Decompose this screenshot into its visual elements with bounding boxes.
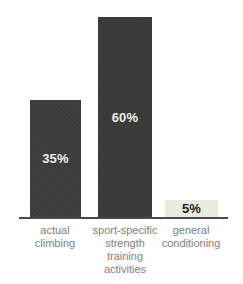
plot-area: 35% 60% 5% — [0, 0, 243, 217]
bar-chart: 35% 60% 5% actual climbing sport-specifi… — [0, 0, 243, 284]
bar-general-conditioning: 5% — [165, 200, 218, 217]
bar-value-label: 5% — [182, 201, 201, 216]
bar-value-label: 60% — [112, 110, 139, 125]
bar-sport-specific-strength-training: 60% — [98, 17, 152, 217]
bar-value-label: 35% — [42, 151, 69, 166]
x-axis-line — [19, 217, 228, 219]
category-label-general-conditioning: general conditioning — [146, 224, 236, 250]
bar-actual-climbing: 35% — [30, 100, 81, 217]
